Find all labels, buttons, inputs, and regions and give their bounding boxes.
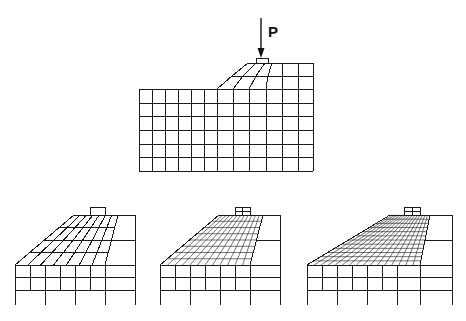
mesh-line [249, 76, 256, 89]
mesh-line [268, 63, 272, 76]
mesh-line [266, 76, 268, 89]
mesh-line [217, 76, 232, 89]
adapted-mesh-1 [15, 207, 135, 305]
adapted-mesh-3 [307, 207, 452, 305]
footing-pad [256, 58, 268, 63]
mesh-line [256, 63, 265, 76]
initial-mesh [139, 63, 313, 171]
fem-mesh-diagram [0, 0, 466, 321]
load-label: P [268, 24, 278, 39]
footing-pad [90, 207, 105, 215]
load-arrow-icon [256, 18, 268, 63]
adapted-mesh-2 [160, 207, 280, 305]
mesh-line [233, 76, 243, 89]
